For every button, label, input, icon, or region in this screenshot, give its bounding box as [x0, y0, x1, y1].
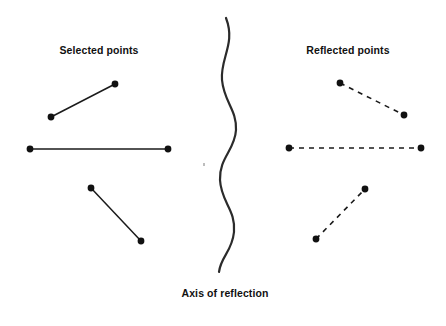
selected-points-label: Selected points: [0, 44, 198, 56]
point-marker: [112, 81, 119, 88]
point-marker: [27, 146, 34, 153]
point-marker: [88, 185, 95, 192]
point-marker: [286, 145, 293, 152]
point-marker: [48, 114, 55, 121]
point-marker: [313, 236, 320, 243]
reflected-points-label: Reflected points: [250, 44, 446, 56]
axis-of-reflection-label: Axis of reflection: [110, 287, 340, 299]
scan-speck: [203, 163, 205, 166]
point-marker: [165, 146, 172, 153]
point-marker: [362, 186, 369, 193]
reflection-diagram: Selected points Reflected points Axis of…: [0, 0, 446, 326]
point-marker: [418, 145, 425, 152]
point-marker: [337, 80, 344, 87]
point-marker: [401, 112, 408, 119]
point-marker: [138, 238, 145, 245]
